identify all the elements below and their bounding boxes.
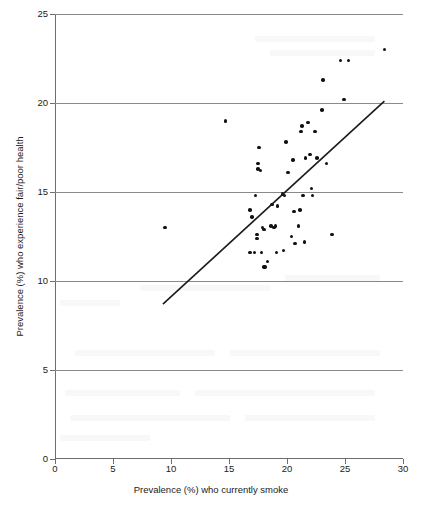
x-axis-tick-labels: 051015202530 bbox=[55, 464, 403, 478]
trend-line bbox=[55, 14, 403, 459]
x-tick-label-15: 15 bbox=[217, 464, 241, 474]
y-tick-label-15: 15 bbox=[37, 187, 48, 197]
y-tick-label-5: 5 bbox=[43, 365, 48, 375]
x-tick-label-0: 0 bbox=[43, 464, 67, 474]
x-tick-label-10: 10 bbox=[159, 464, 183, 474]
y-tick-label-25: 25 bbox=[37, 9, 48, 19]
x-tick-label-20: 20 bbox=[275, 464, 299, 474]
y-axis-tick-labels: 0510152025 bbox=[26, 14, 48, 459]
scatter-plot-figure: Prevalence (%) who experience fair/poor … bbox=[0, 0, 422, 507]
x-tick-label-25: 25 bbox=[333, 464, 357, 474]
x-tick-label-5: 5 bbox=[101, 464, 125, 474]
y-tick-label-0: 0 bbox=[43, 454, 48, 464]
y-tick-label-20: 20 bbox=[37, 98, 48, 108]
y-tick-label-10: 10 bbox=[37, 276, 48, 286]
x-axis-title: Prevalence (%) who currently smoke bbox=[0, 484, 422, 495]
x-tick-label-30: 30 bbox=[391, 464, 415, 474]
plot-area bbox=[55, 14, 403, 459]
